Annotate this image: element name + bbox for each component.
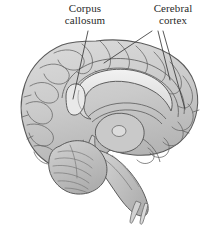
cerebellum-body	[49, 141, 107, 194]
cerebellum	[49, 141, 107, 194]
label-corpus-callosum: Corpus callosum	[54, 3, 116, 26]
brain-illustration	[0, 0, 212, 228]
label-cerebral-cortex: Cerebral cortex	[142, 3, 204, 26]
massa-intermedia	[112, 126, 126, 137]
brain-anatomy-figure: Corpus callosum Cerebral cortex	[0, 0, 212, 228]
